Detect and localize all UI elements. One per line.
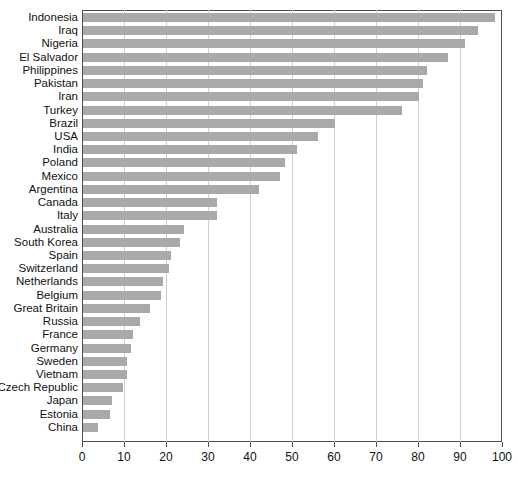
category-label-brazil: Brazil bbox=[49, 117, 78, 130]
bar-row bbox=[83, 421, 513, 434]
bar-canada bbox=[83, 198, 217, 207]
bar-row bbox=[83, 236, 513, 249]
bar-row bbox=[83, 302, 513, 315]
bar-row bbox=[83, 37, 513, 50]
category-label-australia: Australia bbox=[33, 223, 78, 236]
bar-indonesia bbox=[83, 13, 495, 22]
bar-brazil bbox=[83, 119, 335, 128]
bar-row bbox=[83, 355, 513, 368]
bar-iraq bbox=[83, 26, 478, 35]
category-label-el-salvador: El Salvador bbox=[19, 51, 78, 64]
x-tick-30 bbox=[208, 442, 209, 447]
x-tick-50 bbox=[292, 442, 293, 447]
bar-usa bbox=[83, 132, 318, 141]
category-label-czech-republic: Czech Republic bbox=[0, 381, 78, 394]
bar-pakistan bbox=[83, 79, 423, 88]
bar-row bbox=[83, 117, 513, 130]
bar-nigeria bbox=[83, 39, 465, 48]
bar-south-korea bbox=[83, 238, 180, 247]
bar-row bbox=[83, 262, 513, 275]
bar-row bbox=[83, 328, 513, 341]
x-tick-label-60: 60 bbox=[314, 450, 354, 464]
bar-japan bbox=[83, 396, 112, 405]
bar-row bbox=[83, 408, 513, 421]
bar-china bbox=[83, 423, 98, 432]
category-label-canada: Canada bbox=[38, 196, 78, 209]
x-tick-label-90: 90 bbox=[440, 450, 480, 464]
x-tick-60 bbox=[334, 442, 335, 447]
bar-india bbox=[83, 145, 297, 154]
x-tick-40 bbox=[250, 442, 251, 447]
bar-row bbox=[83, 11, 513, 24]
bar-row bbox=[83, 51, 513, 64]
category-label-argentina: Argentina bbox=[29, 183, 78, 196]
bar-row bbox=[83, 183, 513, 196]
category-label-netherlands: Netherlands bbox=[16, 275, 78, 288]
bar-row bbox=[83, 24, 513, 37]
bar-turkey bbox=[83, 106, 402, 115]
category-label-mexico: Mexico bbox=[42, 170, 78, 183]
bar-belgium bbox=[83, 291, 161, 300]
bar-mexico bbox=[83, 172, 280, 181]
category-label-pakistan: Pakistan bbox=[34, 77, 78, 90]
category-label-iran: Iran bbox=[58, 90, 78, 103]
bar-chart: IndonesiaIraqNigeriaEl SalvadorPhilippin… bbox=[0, 0, 518, 477]
x-tick-label-40: 40 bbox=[230, 450, 270, 464]
bar-philippines bbox=[83, 66, 427, 75]
bar-poland bbox=[83, 158, 285, 167]
bar-row bbox=[83, 315, 513, 328]
bar-sweden bbox=[83, 357, 127, 366]
category-label-spain: Spain bbox=[49, 249, 78, 262]
bar-row bbox=[83, 249, 513, 262]
category-label-turkey: Turkey bbox=[43, 104, 78, 117]
bar-row bbox=[83, 209, 513, 222]
category-label-india: India bbox=[53, 143, 78, 156]
category-label-japan: Japan bbox=[47, 394, 78, 407]
bar-italy bbox=[83, 211, 217, 220]
bar-row bbox=[83, 196, 513, 209]
bar-row bbox=[83, 342, 513, 355]
category-label-usa: USA bbox=[54, 130, 78, 143]
bar-row bbox=[83, 104, 513, 117]
category-label-south-korea: South Korea bbox=[14, 236, 78, 249]
bar-row bbox=[83, 77, 513, 90]
bar-vietnam bbox=[83, 370, 127, 379]
bar-switzerland bbox=[83, 264, 169, 273]
bar-argentina bbox=[83, 185, 259, 194]
x-tick-label-50: 50 bbox=[272, 450, 312, 464]
x-tick-label-30: 30 bbox=[188, 450, 228, 464]
bar-great-britain bbox=[83, 304, 150, 313]
bar-row bbox=[83, 368, 513, 381]
category-label-germany: Germany bbox=[31, 342, 78, 355]
bar-row bbox=[83, 394, 513, 407]
category-label-nigeria: Nigeria bbox=[42, 37, 78, 50]
x-tick-label-10: 10 bbox=[104, 450, 144, 464]
x-tick-20 bbox=[166, 442, 167, 447]
bar-row bbox=[83, 143, 513, 156]
category-label-estonia: Estonia bbox=[40, 408, 78, 421]
bar-spain bbox=[83, 251, 171, 260]
x-tick-label-80: 80 bbox=[398, 450, 438, 464]
x-tick-label-70: 70 bbox=[356, 450, 396, 464]
x-tick-90 bbox=[460, 442, 461, 447]
bar-estonia bbox=[83, 410, 110, 419]
category-label-italy: Italy bbox=[57, 209, 78, 222]
category-label-vietnam: Vietnam bbox=[36, 368, 78, 381]
category-label-indonesia: Indonesia bbox=[28, 11, 78, 24]
x-tick-0 bbox=[82, 442, 83, 447]
category-label-poland: Poland bbox=[42, 156, 78, 169]
x-tick-label-0: 0 bbox=[62, 450, 102, 464]
category-label-switzerland: Switzerland bbox=[19, 262, 78, 275]
category-label-great-britain: Great Britain bbox=[13, 302, 78, 315]
category-label-belgium: Belgium bbox=[36, 289, 78, 302]
bar-france bbox=[83, 330, 133, 339]
x-tick-label-20: 20 bbox=[146, 450, 186, 464]
bar-row bbox=[83, 223, 513, 236]
bar-row bbox=[83, 275, 513, 288]
x-tick-70 bbox=[376, 442, 377, 447]
bar-row bbox=[83, 170, 513, 183]
x-tick-label-100: 100 bbox=[482, 450, 518, 464]
bar-row bbox=[83, 289, 513, 302]
bar-iran bbox=[83, 92, 419, 101]
category-label-china: China bbox=[48, 421, 78, 434]
